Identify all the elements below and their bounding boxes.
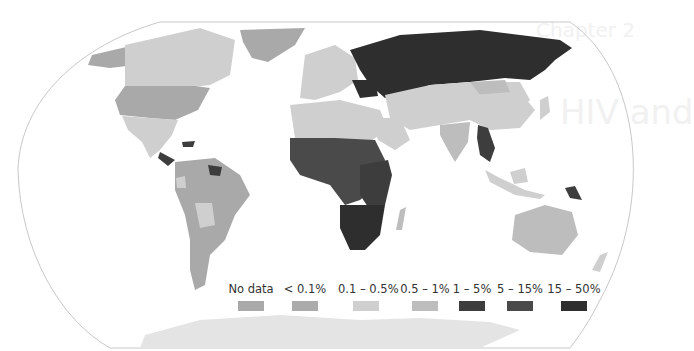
- region-southern-africa: [340, 205, 385, 250]
- legend-swatch: [353, 301, 379, 311]
- legend-item-0-5-1: 0.5 – 1%: [400, 283, 450, 311]
- region-new-zealand: [592, 252, 608, 272]
- legend-item-15-50: 15 – 50%: [544, 283, 604, 311]
- legend-label: 1 – 5%: [450, 283, 494, 296]
- region-india: [440, 122, 470, 162]
- legend-label: 0.5 – 1%: [400, 283, 450, 296]
- region-ecuador: [176, 176, 186, 188]
- region-north-africa: [290, 100, 388, 140]
- legend-item-lt-0-1: < 0.1%: [280, 283, 330, 311]
- legend-label: 0.1 – 0.5%: [338, 283, 394, 296]
- region-usa: [115, 86, 210, 120]
- legend-label: < 0.1%: [280, 283, 330, 296]
- region-mexico: [122, 116, 178, 158]
- region-canada: [125, 28, 235, 88]
- legend-item-5-15: 5 – 15%: [494, 283, 546, 311]
- region-east-africa: [360, 160, 392, 210]
- map-legend: No data < 0.1% 0.1 – 0.5% 0.5 – 1% 1 – 5…: [226, 283, 666, 313]
- region-australia: [512, 205, 578, 255]
- legend-swatch: [292, 301, 318, 311]
- legend-item-0-1-0-5: 0.1 – 0.5%: [338, 283, 394, 311]
- legend-item-1-5: 1 – 5%: [450, 283, 494, 311]
- legend-label: 5 – 15%: [494, 283, 546, 296]
- region-madagascar: [396, 207, 406, 230]
- region-antarctica: [140, 315, 520, 348]
- region-borneo: [510, 168, 528, 184]
- region-haiti: [182, 141, 195, 147]
- legend-swatch: [507, 301, 533, 311]
- legend-label: 15 – 50%: [544, 283, 604, 296]
- region-png: [565, 186, 582, 200]
- legend-item-no-data: No data: [226, 283, 276, 311]
- legend-label: No data: [226, 283, 276, 296]
- legend-swatch: [412, 301, 438, 311]
- legend-swatch: [459, 301, 485, 311]
- region-europe: [300, 45, 358, 100]
- region-central-america-high: [158, 152, 175, 166]
- legend-swatch: [238, 301, 264, 311]
- region-greenland: [240, 28, 305, 62]
- legend-swatch: [561, 301, 587, 311]
- region-japan: [540, 96, 550, 120]
- region-myanmar-thailand: [477, 125, 495, 162]
